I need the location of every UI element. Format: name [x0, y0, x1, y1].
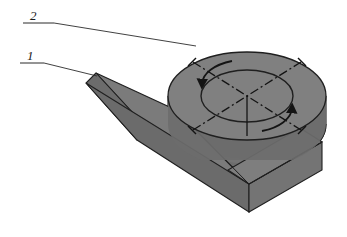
cylinder-top-group [168, 52, 326, 140]
callout-1[interactable]: 1 [20, 48, 97, 76]
callout-1-label: 1 [27, 48, 34, 63]
technical-drawing-figure: 2 1 [0, 0, 347, 237]
callout-1-leader-line [44, 63, 97, 76]
callout-2-label: 2 [30, 8, 37, 23]
callout-2[interactable]: 2 [23, 8, 196, 46]
isometric-part-drawing: 2 1 [0, 0, 347, 237]
callout-2-leader-line [54, 23, 196, 46]
